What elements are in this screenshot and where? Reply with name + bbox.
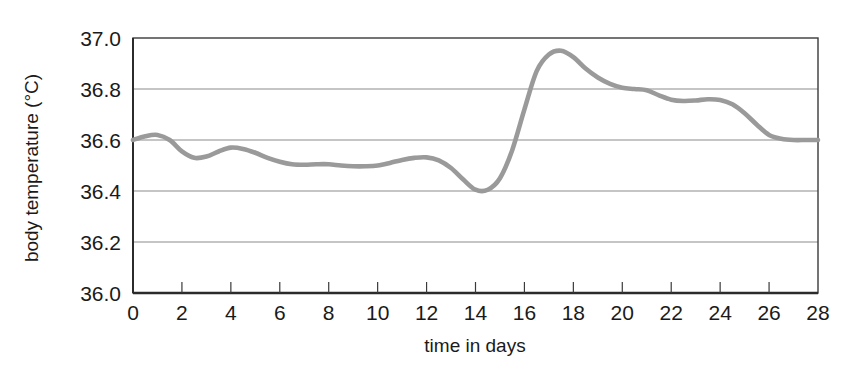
x-tick-label: 26 [757, 301, 780, 324]
x-tick-label: 0 [127, 301, 139, 324]
x-tick-label: 22 [660, 301, 683, 324]
y-tick-label: 36.4 [80, 180, 121, 203]
x-tick-label: 4 [225, 301, 237, 324]
y-tick-label: 36.8 [80, 78, 121, 101]
y-axis-tick-labels: 36.036.236.436.636.837.0 [80, 27, 121, 305]
body-temperature-line-chart: 0246810121416182022242628 36.036.236.436… [0, 0, 854, 371]
chart-grid [133, 89, 818, 242]
y-tick-label: 37.0 [80, 27, 121, 50]
x-tick-label: 16 [513, 301, 536, 324]
temperature-curve [133, 51, 818, 191]
x-tick-label: 20 [611, 301, 634, 324]
chart-container: 0246810121416182022242628 36.036.236.436… [0, 0, 854, 371]
x-tick-label: 14 [464, 301, 488, 324]
plot-frame [133, 38, 818, 293]
x-axis-title: time in days [424, 335, 525, 356]
y-tick-label: 36.0 [80, 282, 121, 305]
x-tick-label: 12 [415, 301, 438, 324]
x-tick-label: 6 [274, 301, 286, 324]
x-tick-label: 24 [708, 301, 732, 324]
x-tick-label: 28 [806, 301, 829, 324]
x-tick-label: 2 [176, 301, 188, 324]
x-axis-ticks [182, 282, 769, 293]
y-tick-label: 36.6 [80, 129, 121, 152]
x-axis-tick-labels: 0246810121416182022242628 [127, 301, 830, 324]
y-tick-label: 36.2 [80, 231, 121, 254]
x-tick-label: 18 [562, 301, 585, 324]
x-tick-label: 10 [366, 301, 389, 324]
data-series-line [133, 51, 818, 191]
x-tick-label: 8 [323, 301, 335, 324]
chart-axes [133, 38, 818, 293]
y-axis-title: body temperature (°C) [21, 74, 42, 262]
